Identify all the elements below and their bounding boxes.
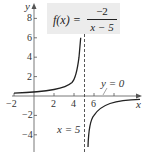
y-ticks — [34, 18, 37, 134]
y-axis-label: y — [25, 1, 30, 12]
y-axis-arrow-icon — [32, 3, 37, 9]
x-tick-label: 6 — [91, 99, 96, 109]
x-tick-label: −2 — [6, 99, 17, 109]
y-tick-label: 6 — [27, 33, 32, 43]
curve-left-branch — [14, 38, 81, 93]
fraction-bar — [87, 19, 117, 20]
y-tick-label: −4 — [22, 130, 33, 140]
y-tick-label: 4 — [27, 52, 32, 62]
x-tick-label: 4 — [71, 99, 76, 109]
y-tick-label: 8 — [27, 13, 32, 23]
x-ticks — [14, 93, 114, 96]
y-tick-label: 2 — [27, 72, 32, 82]
horizontal-asymptote-label: y = 0 — [101, 78, 124, 89]
vertical-asymptote-label: x = 5 — [57, 124, 80, 135]
function-denominator: x − 5 — [87, 21, 117, 33]
function-label-box: f(x) = −2 x − 5 — [47, 3, 120, 34]
y-tick-label: −2 — [22, 110, 33, 120]
function-lhs: f(x) = — [53, 13, 81, 28]
function-fraction: −2 x − 5 — [87, 5, 117, 33]
x-tick-label: 2 — [51, 99, 56, 109]
function-numerator: −2 — [87, 5, 117, 18]
horizontal-asymptote-pointer — [103, 88, 107, 95]
x-axis-label: x — [136, 99, 141, 110]
